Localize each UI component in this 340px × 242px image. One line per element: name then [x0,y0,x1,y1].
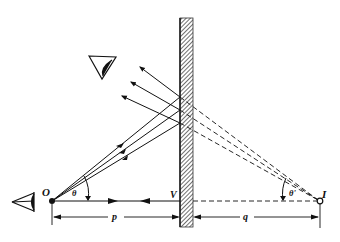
angle-theta-prime: θ' [280,178,296,201]
label-object: O [42,186,50,198]
label-q: q [243,211,248,222]
mirror [180,18,193,227]
svg-text:θ': θ' [289,188,296,198]
object-point [49,198,55,204]
plane-mirror-diagram: O I V θ θ' p q [0,0,340,242]
observer-eye-icon [89,56,116,79]
svg-text:θ: θ [72,188,77,198]
label-p: p [111,211,117,222]
virtual-rays [180,97,318,200]
eye-icon [12,192,34,212]
label-vertex: V [170,189,178,200]
incident-ray-arrows [116,143,128,160]
incident-rays [52,97,180,201]
label-image: I [321,188,327,200]
reflected-rays [122,67,180,123]
